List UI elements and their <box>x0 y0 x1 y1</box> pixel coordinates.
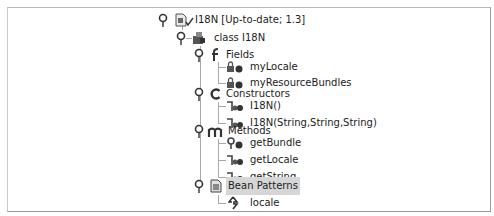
protected-method-icon <box>226 136 244 150</box>
tree-node-label: I18N [Up-to-date; 1.3] <box>195 11 305 29</box>
methods-category-icon <box>207 124 225 138</box>
tree-line <box>218 203 226 204</box>
tree-node-label: Bean Patterns <box>226 177 300 195</box>
tree-line <box>218 106 226 107</box>
expand-handle-icon[interactable] <box>194 179 204 193</box>
tree-line <box>218 62 219 83</box>
bean-patterns-icon <box>209 179 223 193</box>
tree-node-label: getLocale <box>250 151 299 169</box>
expand-handle-icon[interactable] <box>194 124 204 138</box>
constructors-category-icon <box>209 87 223 101</box>
tree-line <box>218 195 219 203</box>
tree-node-bean-patterns[interactable]: Bean Patterns <box>194 177 314 195</box>
tree-node-constructor[interactable]: I18N() <box>226 97 346 115</box>
expand-handle-icon[interactable] <box>176 31 186 45</box>
expand-handle-icon[interactable] <box>158 13 168 27</box>
checkmark-icon <box>185 13 194 27</box>
tree-line <box>218 160 226 161</box>
tree-line <box>218 83 226 84</box>
tree-line <box>218 139 219 177</box>
tree-line <box>200 46 201 184</box>
tree-line <box>218 143 226 144</box>
tree-line <box>218 67 226 68</box>
tree-node-label: I18N() <box>250 97 281 115</box>
tree-node-root[interactable]: I18N [Up-to-date; 1.3] <box>158 11 358 29</box>
tree-node-class[interactable]: class I18N <box>176 29 326 47</box>
tree-node-label: locale <box>250 194 279 212</box>
tree-node-label: class I18N <box>214 29 265 47</box>
tree-node-method[interactable]: getLocale <box>226 151 346 169</box>
constructor-icon <box>226 99 244 113</box>
fields-category-icon <box>209 48 223 62</box>
tree-node-label: getBundle <box>250 134 301 152</box>
private-field-icon <box>226 60 244 74</box>
expand-handle-icon[interactable] <box>194 87 204 101</box>
tree-node-bean-property[interactable]: locale <box>226 194 326 212</box>
public-method-icon <box>226 153 244 167</box>
class-icon <box>192 31 206 45</box>
bean-property-icon <box>228 196 242 210</box>
tree-node-method[interactable]: getBundle <box>226 134 346 152</box>
expand-handle-icon[interactable] <box>194 48 204 62</box>
